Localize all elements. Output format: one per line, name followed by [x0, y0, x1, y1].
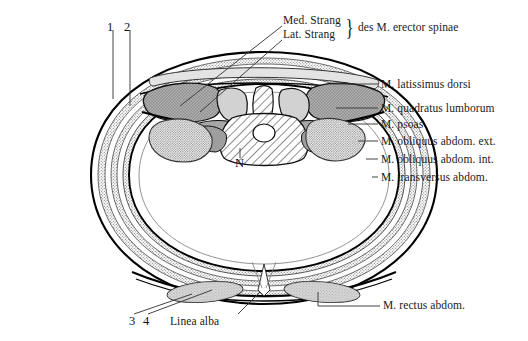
- label-quadratus-lumborum: M. quadratus lumborum: [381, 102, 495, 116]
- marker-2-label: 2: [124, 20, 130, 35]
- label-obliquus-abdom-ext: M. obliquus abdom. ext.: [381, 135, 496, 149]
- med-strang-label: Med. Strang: [283, 14, 341, 28]
- leader-marker-3: [134, 294, 192, 314]
- marker-1-label: 1: [107, 20, 113, 35]
- vertebral-canal: [253, 124, 275, 142]
- marker-3-label: 3: [129, 314, 135, 329]
- label-latissimus-dorsi: M. latissimus dorsi: [381, 78, 471, 92]
- label-psoas: M. psoas: [381, 118, 423, 132]
- brace-icon: }: [345, 16, 353, 39]
- label-rectus-abdom: M. rectus abdom.: [383, 299, 465, 313]
- label-obliquus-abdom-int: M. obliquus abdom. int.: [381, 153, 494, 167]
- nerve-marker-label: N: [235, 156, 244, 171]
- erector-spinae-label-group: Med. Strang Lat. Strang } des M. erector…: [283, 14, 458, 41]
- marker-4-label: 4: [143, 314, 149, 329]
- label-transversus-abdom: M. transversus abdom.: [381, 171, 488, 185]
- lat-strang-label: Lat. Strang: [283, 28, 341, 42]
- erector-spinae-group-label: des M. erector spinae: [358, 21, 458, 35]
- anatomy-figure-page: 1 2 Med. Strang Lat. Strang } des M. ere…: [0, 0, 528, 341]
- label-linea-alba: Linea alba: [170, 315, 219, 329]
